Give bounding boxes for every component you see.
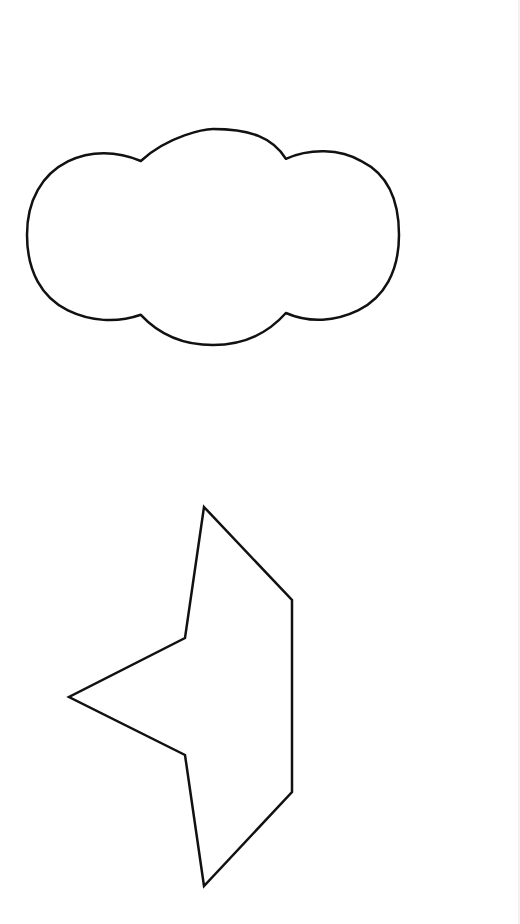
drawing-canvas [0, 0, 520, 924]
concave-polygon-shape[interactable] [69, 507, 292, 886]
shapes-layer [0, 0, 520, 924]
cloud-shape[interactable] [27, 129, 399, 345]
